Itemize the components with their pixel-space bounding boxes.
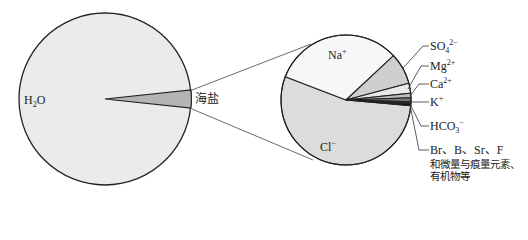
legend-so4-sub: 4 [445,46,449,55]
label-na-main: Na [328,48,342,62]
label-na-sup: + [342,47,347,56]
legend-mg: Mg2+ [430,60,455,72]
legend-so4: SO42− [430,40,458,52]
legend-hco3-sub: 3 [455,126,459,135]
legend-k-main: K [430,95,439,109]
leader-so4 [403,46,429,68]
legend-mg-main: Mg [430,59,447,73]
label-na: Na+ [328,49,347,61]
legend-hco3: HCO3− [430,120,464,132]
legend-trace-line3: 有机物等 [430,170,470,182]
label-sea-salt: 海盐 [195,93,219,105]
legend-trace-line2: 和微量与痕量元素、 [430,158,520,170]
label-cl: Cl− [320,141,336,153]
label-cl-main: Cl [320,140,331,154]
legend-so4-sup: 2− [449,38,458,47]
legend-ca-main: Ca [430,77,443,91]
legend-k-sup: + [439,94,444,103]
label-water-main: H [24,93,33,107]
legend-ca: Ca2+ [430,78,452,90]
legend-ca-sup: 2+ [443,76,452,85]
label-water: H2O [24,94,45,106]
legend-so4-main: SO [430,39,445,53]
leader-mg [408,66,429,89]
label-cl-sup: − [331,139,336,148]
leader-trace [410,105,429,150]
legend-trace-line1: Br、B、Sr、F [430,144,503,156]
legend-hco3-main: HCO [430,119,455,133]
leader-ca [410,84,429,96]
legend-hco3-sup: − [459,118,464,127]
legend-mg-sup: 2+ [447,58,456,67]
legend-k: K+ [430,96,443,108]
leader-hco3 [410,104,429,126]
label-water-tail: O [37,93,46,107]
